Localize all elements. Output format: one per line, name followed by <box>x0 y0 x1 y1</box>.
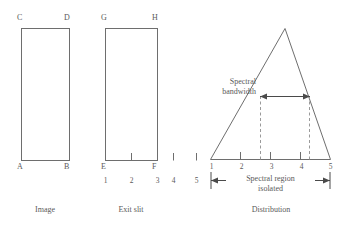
exit-slit-scale-4: 4 <box>168 176 179 186</box>
exit-slit-corner-label-h: H <box>152 13 158 23</box>
spectral-region-label-line1: Spectral region <box>222 174 319 184</box>
distribution-caption: Distribution <box>238 205 304 215</box>
distribution-scale-4: 4 <box>296 162 307 172</box>
exit-slit-corner-label-f: F <box>152 162 156 172</box>
distribution-scale-5: 5 <box>325 162 336 172</box>
image-corner-label-a: A <box>17 162 23 172</box>
distribution-scale-3: 3 <box>266 162 277 172</box>
spectral-region-label: Spectral region isolated <box>222 174 319 194</box>
spectral-bandwidth-arrow <box>260 94 310 100</box>
spectral-bandwidth-label: Spectral bandwidth <box>198 77 256 97</box>
image-corner-label-c: C <box>17 13 22 23</box>
exit-slit-corner-label-e: E <box>101 162 106 172</box>
figure-line-art <box>0 0 340 229</box>
exit-slit-rectangle <box>106 29 158 161</box>
exit-slit-scale-5: 5 <box>191 176 202 186</box>
exit-slit-scale-2: 2 <box>126 176 137 186</box>
image-corner-label-b: B <box>64 162 69 172</box>
image-caption: Image <box>13 205 77 215</box>
optics-figure: C D A B Image G H E F 1 2 3 4 5 Exit sli… <box>0 0 340 229</box>
distribution-scale-1: 1 <box>206 162 217 172</box>
exit-slit-corner-label-g: G <box>101 13 107 23</box>
spectral-bandwidth-label-line2: bandwidth <box>198 87 256 97</box>
exit-slit-caption: Exit slit <box>99 205 163 215</box>
spectral-region-label-line2: isolated <box>222 184 319 194</box>
image-corner-label-d: D <box>64 13 70 23</box>
spectral-bandwidth-label-line1: Spectral <box>198 77 256 87</box>
image-rectangle <box>22 29 70 161</box>
exit-slit-scale-3: 3 <box>152 176 163 186</box>
exit-slit-scale-1: 1 <box>100 176 111 186</box>
distribution-scale-2: 2 <box>236 162 247 172</box>
